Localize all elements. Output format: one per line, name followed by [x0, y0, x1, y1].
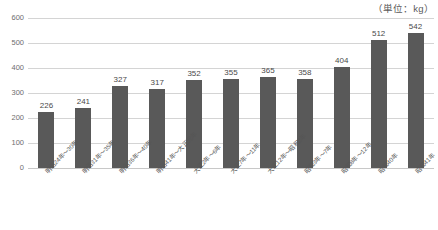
bar-value-label: 512: [372, 30, 385, 38]
x-label-slot: 明治31年～35年: [65, 168, 102, 230]
y-axis-tick-label: 0: [20, 164, 24, 172]
bar-slot: 226: [28, 18, 65, 168]
y-axis-tick-label: 200: [11, 114, 24, 122]
unit-note: （単位：kg）: [373, 1, 434, 15]
bar-chart: （単位：kg） 0100200300400500600 226241327317…: [0, 0, 438, 230]
x-label-slot: 明治24年～30年: [28, 168, 65, 230]
bar-value-label: 365: [261, 67, 274, 75]
x-label-slot: 明治41年～大正元年: [139, 168, 176, 230]
bar[interactable]: [297, 79, 313, 169]
bar[interactable]: [371, 40, 387, 168]
bar-value-label: 358: [298, 69, 311, 77]
y-axis-tick-label: 100: [11, 139, 24, 147]
bar[interactable]: [334, 67, 350, 168]
x-label-slot: 昭和3年～7年: [286, 168, 323, 230]
x-label-slot: 大正12年～昭和2年: [249, 168, 286, 230]
bar[interactable]: [223, 79, 239, 168]
x-label-slot: 昭和8年～12年: [323, 168, 360, 230]
x-label-slot: 昭和40年: [360, 168, 397, 230]
bar-value-label: 327: [114, 76, 127, 84]
y-axis-tick-label: 300: [11, 89, 24, 97]
bar-value-label: 352: [187, 70, 200, 78]
bar[interactable]: [408, 33, 424, 169]
bar-value-label: 542: [409, 23, 422, 31]
x-label-slot: 大正7年～11年: [213, 168, 250, 230]
y-axis-tick-label: 600: [11, 14, 24, 22]
bar-value-label: 226: [40, 102, 53, 110]
y-axis-tick-label: 500: [11, 39, 24, 47]
bar-value-label: 317: [150, 79, 163, 87]
x-label-slot: 大正2年～6年: [176, 168, 213, 230]
bar[interactable]: [149, 89, 165, 168]
x-label-slot: 明治36年～40年: [102, 168, 139, 230]
bar-slot: 542: [397, 18, 434, 168]
bar-value-label: 241: [77, 98, 90, 106]
bar[interactable]: [186, 80, 202, 168]
bar-value-label: 404: [335, 57, 348, 65]
bar[interactable]: [260, 77, 276, 168]
bar-value-label: 355: [224, 69, 237, 77]
x-axis-labels: 明治24年～30年明治31年～35年明治36年～40年明治41年～大正元年大正2…: [28, 168, 434, 230]
bar[interactable]: [112, 86, 128, 168]
x-label-slot: 昭和41年: [397, 168, 434, 230]
y-axis-tick-label: 400: [11, 64, 24, 72]
